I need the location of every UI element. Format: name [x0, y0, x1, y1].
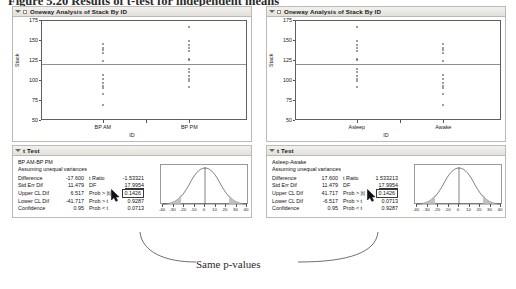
stat-label-2: Prob > t — [341, 198, 366, 205]
data-point — [102, 104, 104, 106]
data-point — [442, 87, 444, 89]
distribution-x-tick-label: -20 — [434, 207, 440, 212]
stat-value-2: 0.9287 — [366, 205, 400, 212]
data-point — [188, 50, 190, 52]
stat-label-2: Prob > |t| — [341, 189, 366, 197]
plot-area — [41, 20, 247, 120]
ttest-panel-header[interactable]: t Test — [12, 145, 252, 156]
ttest-stats-table: Difference-17.600t Ratio-1.53321Std Err … — [18, 175, 146, 213]
data-point — [188, 80, 190, 82]
stat-label-2: DF — [87, 182, 112, 189]
ttest-panel-body: Asleep-AwakeAssuming unequal variancesDi… — [266, 156, 506, 218]
distribution-plot-area — [160, 164, 248, 204]
stat-label: Difference — [18, 175, 62, 182]
data-point — [442, 52, 444, 54]
distribution-x-tick-label: 10 — [466, 207, 471, 212]
y-tick-label: 100 — [29, 77, 38, 83]
data-point — [442, 60, 444, 62]
stat-value: 17.600 — [316, 175, 341, 182]
ttest-stat-row: Std Err Dif11.479DF17.9954 — [18, 182, 146, 189]
data-point — [442, 78, 444, 80]
data-point — [356, 44, 358, 46]
x-tick — [400, 120, 401, 123]
distribution-x-tick-label: 40 — [244, 207, 249, 212]
data-point — [442, 43, 444, 45]
ttest-panel-header[interactable]: t Test — [266, 145, 506, 156]
plot-area — [295, 20, 501, 120]
distribution-x-tick-label: 20 — [223, 207, 228, 212]
stat-label-2: Prob > |t| — [87, 189, 112, 197]
y-tick-label: 150 — [29, 37, 38, 43]
x-tick-label: Asleep — [349, 124, 365, 130]
oneway-panel-title: Oneway Analysis of Stack By ID — [284, 8, 381, 15]
ttest-stat-row: Upper CL Dif6.517Prob > |t|0.1426 — [18, 189, 146, 197]
data-point — [102, 60, 104, 62]
distribution-x-tick-label: -20 — [180, 207, 186, 212]
stat-label: Confidence — [272, 205, 316, 212]
data-point — [188, 26, 190, 28]
ttest-stat-row: Difference17.600t Ratio1.533213 — [272, 175, 400, 182]
data-point — [442, 93, 444, 95]
report-right: Oneway Analysis of Stack By IDStack17515… — [266, 6, 506, 218]
disclosure-triangle-icon[interactable] — [15, 149, 21, 152]
stat-label: Confidence — [18, 205, 62, 212]
stat-label: Std Err Dif — [18, 182, 62, 189]
data-point — [442, 104, 444, 106]
disclosure-triangle-icon[interactable] — [269, 149, 275, 152]
ttest-panel: t TestAsleep-AwakeAssuming unequal varia… — [266, 145, 506, 218]
disclosure-triangle-icon[interactable] — [269, 10, 275, 13]
distribution-x-axis: -40-30-20-10010203040 — [414, 204, 502, 214]
distribution-chart: -40-30-20-10010203040 — [414, 164, 502, 214]
x-axis: AsleepAwake — [295, 120, 501, 133]
oneway-panel: Oneway Analysis of Stack By IDStack17515… — [12, 6, 252, 142]
y-axis: 1751501251007550 — [19, 20, 41, 120]
data-point — [356, 26, 358, 28]
stat-value-2: -1.53321 — [112, 175, 146, 182]
stat-value-underlined: 17.9954 — [379, 182, 399, 189]
ttest-stat-row: Confidence0.95Prob < t0.0713 — [18, 205, 146, 212]
scatter-chart: Stack1751501251007550BP AMBP PMID — [13, 17, 251, 141]
stat-label: Lower CL Dif — [272, 198, 316, 205]
x-tick-label: Awake — [435, 124, 451, 130]
oneway-panel-header[interactable]: Oneway Analysis of Stack By ID — [12, 6, 252, 17]
stat-value: 11.479 — [316, 182, 341, 189]
ttest-panel-body: BP AM-BP PMAssuming unequal variancesDif… — [12, 156, 252, 218]
oneway-panel: Oneway Analysis of Stack By IDStack17515… — [266, 6, 506, 142]
stat-value: 0.95 — [62, 205, 87, 212]
stat-label: Lower CL Dif — [18, 198, 62, 205]
stat-value-2: 17.9954 — [366, 182, 400, 189]
stat-label-2: t Ratio — [87, 175, 112, 182]
data-point — [188, 86, 190, 88]
data-point — [356, 68, 358, 70]
distribution-chart: -40-30-20-10010203040 — [160, 164, 248, 214]
ttest-panel-title: t Test — [23, 147, 40, 154]
ttest-stat-row: Difference-17.600t Ratio-1.53321 — [18, 175, 146, 182]
stat-value-2: 1.533213 — [366, 175, 400, 182]
stat-value: 41.717 — [316, 189, 341, 197]
y-tick-label: 175 — [283, 17, 292, 23]
data-point — [356, 59, 358, 61]
distribution-x-tick-label: -40 — [413, 207, 419, 212]
disclosure-triangle-icon[interactable] — [15, 10, 21, 13]
p-value-highlight: 0.1426 — [122, 189, 145, 197]
stat-label: Difference — [272, 175, 316, 182]
oneway-panel-title: Oneway Analysis of Stack By ID — [30, 8, 127, 15]
stat-label-2: Prob < t — [341, 205, 366, 212]
data-point — [356, 50, 358, 52]
y-tick-label: 125 — [29, 57, 38, 63]
ttest-stat-row: Upper CL Dif41.717Prob > |t|0.1426 — [272, 189, 400, 197]
distribution-x-tick-label: -30 — [423, 207, 429, 212]
stat-label: Upper CL Dif — [272, 189, 316, 197]
x-tick-label: BP AM — [95, 124, 111, 130]
stat-value: 6.517 — [62, 189, 87, 197]
stat-value-2: 0.0713 — [112, 205, 146, 212]
ttest-panel: t TestBP AM-BP PMAssuming unequal varian… — [12, 145, 252, 218]
data-point — [356, 80, 358, 82]
ttest-stat-row: Lower CL Dif-6.517Prob > t0.0713 — [272, 198, 400, 205]
oneway-panel-header[interactable]: Oneway Analysis of Stack By ID — [266, 6, 506, 17]
scatter-chart: Stack1751501251007550AsleepAwakeID — [267, 17, 505, 141]
distribution-x-tick-label: -30 — [169, 207, 175, 212]
mean-line — [296, 64, 500, 65]
stat-value-underlined: 17.9954 — [125, 182, 145, 189]
x-tick-label: BP PM — [181, 124, 198, 130]
